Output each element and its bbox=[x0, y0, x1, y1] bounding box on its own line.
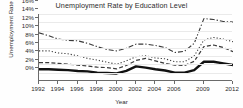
y-tick-label: 2% bbox=[25, 55, 34, 62]
x-tick-label: 2009 bbox=[196, 85, 210, 92]
x-tick-mark bbox=[96, 81, 97, 84]
x-tick-mark bbox=[135, 81, 136, 84]
x-tick-label: 1998 bbox=[89, 85, 103, 92]
gridline bbox=[39, 22, 232, 23]
x-tick-mark bbox=[203, 81, 204, 84]
gridline bbox=[39, 64, 232, 65]
chart-container: Unemployment Rate by Education Level Une… bbox=[0, 0, 243, 108]
x-tick-label: 1992 bbox=[31, 85, 45, 92]
gridline bbox=[39, 39, 232, 40]
x-tick-mark bbox=[232, 81, 233, 84]
gridline bbox=[39, 14, 232, 15]
y-tick-mark bbox=[35, 0, 38, 1]
y-tick-mark bbox=[35, 8, 38, 9]
gridline bbox=[39, 73, 232, 74]
x-tick-label: 2002 bbox=[128, 85, 142, 92]
x-tick-mark bbox=[154, 81, 155, 84]
x-tick-label: 2012 bbox=[225, 85, 239, 92]
x-axis-label: Year bbox=[0, 98, 243, 105]
y-tick-label: 10% bbox=[22, 22, 34, 29]
gridline bbox=[39, 56, 232, 57]
series-line-1 bbox=[39, 37, 233, 64]
x-tick-mark bbox=[116, 81, 117, 84]
y-tick-label: 0% bbox=[25, 64, 34, 71]
x-tick-mark bbox=[38, 81, 39, 84]
x-tick-mark bbox=[77, 81, 78, 84]
x-tick-mark bbox=[57, 81, 58, 84]
gridline bbox=[39, 31, 232, 32]
x-tick-label: 2006 bbox=[167, 85, 181, 92]
y-tick-label: 4% bbox=[25, 47, 34, 54]
y-axis-ticks: 0%2%4%6%8%10%12%14%16% bbox=[0, 0, 38, 67]
x-tick-label: 1996 bbox=[70, 85, 84, 92]
x-tick-label: 2004 bbox=[148, 85, 162, 92]
y-tick-label: 6% bbox=[25, 38, 34, 45]
x-tick-mark bbox=[174, 81, 175, 84]
x-tick-label: 2000 bbox=[109, 85, 123, 92]
x-tick-label: 1994 bbox=[51, 85, 65, 92]
y-tick-label: 12% bbox=[22, 13, 34, 20]
plot-area bbox=[38, 14, 232, 81]
y-tick-label: 8% bbox=[25, 30, 34, 37]
gridline bbox=[39, 48, 232, 49]
x-axis-ticks: 1992199419961998200020022004200620092012 bbox=[38, 81, 232, 99]
y-tick-label: 16% bbox=[22, 0, 34, 4]
y-tick-label: 14% bbox=[22, 5, 34, 12]
